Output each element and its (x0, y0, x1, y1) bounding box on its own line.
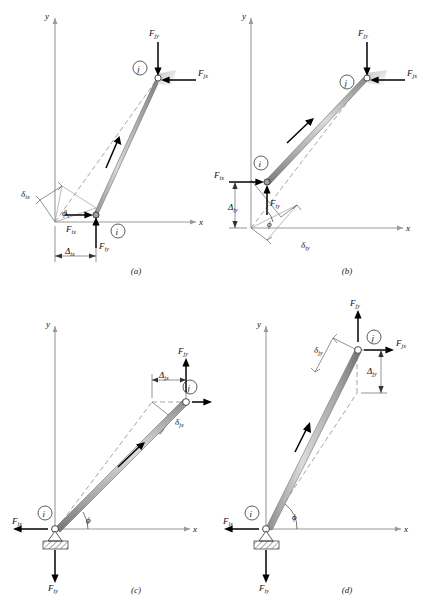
support-hatch-c (43, 541, 68, 549)
force-fiy-label-a: Fiy (98, 241, 109, 252)
force-fix-label-a: Fix (65, 224, 76, 235)
node-j-label-d: j (367, 330, 381, 344)
force-fjy-label-c: Fjy (177, 346, 188, 357)
angle-label-d: ϕ (292, 512, 297, 522)
axis-x-label-c: x (192, 524, 197, 534)
force-fjy-d (354, 310, 361, 342)
force-fjx-label-a: Fjx (197, 68, 208, 79)
caption-c: (c) (116, 585, 156, 595)
dimension-delta-iy-label-b: Δiy (227, 202, 238, 213)
axis-y-label-c: y (45, 319, 50, 329)
node-i-label-a: i (111, 224, 125, 238)
axes-a (53, 18, 196, 224)
deformation-construction-b (251, 180, 301, 244)
force-fjx-c (192, 398, 212, 405)
panel-c: x y δjx ϕ j (0, 292, 212, 592)
dimension-delta-jy-label-d: Δjy (366, 366, 377, 377)
node-j-joint-c (183, 399, 190, 406)
caption-d: (d) (327, 585, 367, 595)
node-j-label-b: j (340, 75, 354, 89)
force-fjx-label-d: Fjx (395, 338, 406, 349)
force-fjy-a (154, 42, 161, 76)
dimension-delta-ix-label-a: Δix (64, 246, 75, 257)
axes-c (53, 326, 190, 531)
force-fix-label-c: Fix (11, 516, 22, 527)
dimension-delta-jx-c (152, 374, 186, 398)
axial-force-arrow-c (118, 442, 145, 467)
force-fix-label-b: Fix (213, 170, 224, 181)
force-fix-label-d: Fix (222, 516, 233, 527)
svg-text:j: j (136, 64, 140, 74)
node-j-label-a: j (133, 61, 147, 75)
angle-label-a: ϕ (62, 208, 67, 218)
panel-d: x y δjy ϕ j (211, 292, 423, 592)
axis-x-label-a: x (198, 217, 203, 227)
panel-b: x y δiy ϕ (211, 0, 423, 270)
svg-text:j: j (186, 383, 190, 393)
caption-a: (a) (116, 266, 156, 276)
svg-text:δix: δix (21, 189, 30, 200)
member-bar-c (55, 399, 188, 532)
axis-y-label-d: y (256, 319, 261, 329)
support-hatch-d (254, 541, 279, 549)
deformation-label-b: δiy (301, 240, 310, 251)
node-i-label-b: i (254, 156, 268, 170)
force-fiy-c (51, 550, 58, 583)
angle-label-b: ϕ (267, 219, 272, 229)
force-fjx-label-b: Fjx (406, 68, 417, 79)
axis-y-label-b: y (241, 11, 246, 21)
force-fix-a (65, 211, 93, 218)
node-i-label-c: i (38, 506, 52, 520)
force-fiy-label-b: Fiy (269, 198, 280, 209)
caption-b: (b) (327, 266, 367, 276)
member-bar-a (93, 77, 161, 216)
node-i-label-d: i (245, 506, 259, 520)
force-fjy-label-d: Fjy (349, 298, 360, 309)
undeformed-member-c (57, 402, 152, 528)
node-j-label-c: j (183, 380, 197, 394)
force-fiy-label-c: Fiy (47, 583, 58, 594)
node-j-joint-d (355, 347, 362, 354)
deformation-label-d: δjy (314, 345, 323, 356)
deformation-label-a: δix (21, 189, 30, 200)
svg-text:i: i (42, 509, 45, 519)
delta-sub-a: ix (25, 193, 30, 200)
axis-x-label-d: x (403, 524, 408, 534)
axis-x-label-b: x (405, 223, 410, 233)
deformation-label-c: δjx (175, 417, 184, 428)
force-fiy-label-d: Fiy (258, 583, 269, 594)
svg-text:i: i (115, 227, 118, 237)
svg-text:j: j (370, 333, 374, 343)
svg-text:i: i (258, 159, 261, 169)
dimension-delta-jx-label-c: Δjx (158, 370, 169, 381)
angle-label-c: ϕ (86, 515, 91, 525)
force-fjy-label-a: Fjy (148, 28, 159, 39)
axis-y-label-a: y (44, 11, 49, 21)
node-i-joint-b (264, 179, 270, 185)
svg-text:i: i (249, 509, 252, 519)
panel-a: x y δix ϕ (0, 0, 212, 270)
force-fjy-label-b: Fjy (357, 28, 368, 39)
undeformed-member-b (251, 82, 363, 228)
truss-member-free-body-figure: x y δix ϕ (0, 0, 423, 602)
svg-text:j: j (343, 78, 347, 88)
force-fjy-b (363, 42, 370, 76)
member-bar-b (266, 78, 368, 185)
force-fiy-d (262, 550, 269, 583)
undeformed-member-a (55, 82, 155, 222)
member-bar-d (266, 350, 361, 530)
